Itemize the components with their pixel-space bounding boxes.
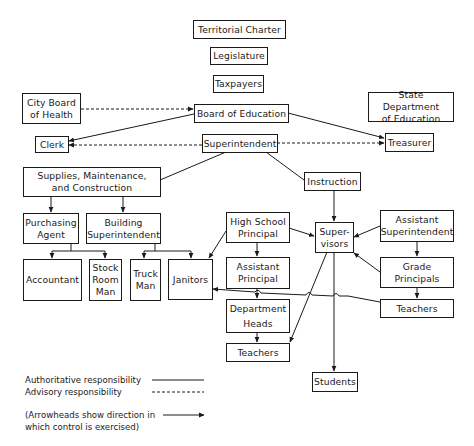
- legend-advisory-label: Advisory responsibility: [25, 386, 122, 398]
- node-city-board-of-health: City Board of Health: [22, 93, 81, 124]
- node-truck-man: Truck Man: [130, 259, 161, 301]
- node-grade-principals: Grade Principals: [380, 257, 454, 288]
- node-instruction: Instruction: [304, 172, 361, 191]
- node-state-department-of-education: State Department of Education: [368, 92, 454, 122]
- node-supervisors: Super- visors: [315, 222, 354, 253]
- node-board-of-education: Board of Education: [194, 104, 289, 123]
- node-superintendent: Superintendent: [202, 134, 278, 153]
- node-assistant-superintendent: Assistant Superintendent: [380, 210, 454, 242]
- node-clerk: Clerk: [35, 136, 69, 153]
- node-treasurer: Treasurer: [385, 133, 434, 152]
- node-accountant: Accountant: [23, 259, 82, 301]
- node-high-school-principal: High School Principal: [226, 212, 290, 243]
- node-territorial-charter: Territorial Charter: [193, 20, 286, 39]
- node-supplies-maintenance-construction: Supplies, Maintenance, and Construction: [23, 167, 161, 197]
- node-legislature: Legislature: [210, 47, 268, 65]
- org-chart: Territorial Charter Legislature Taxpayer…: [0, 0, 474, 446]
- node-stock-room-man: Stock Room Man: [89, 259, 122, 301]
- node-teachers-high-school: Teachers: [226, 343, 290, 362]
- node-janitors: Janitors: [168, 259, 213, 300]
- node-building-superintendent: Building Superintendent: [86, 213, 161, 244]
- node-assistant-principal: Assistant Principal: [226, 257, 290, 289]
- node-purchasing-agent: Purchasing Agent: [23, 213, 79, 244]
- node-department-heads: Department Heads: [226, 299, 290, 333]
- node-teachers-elementary: Teachers: [380, 299, 454, 318]
- legend-arrow-note: (Arrowheads show direction in which cont…: [25, 409, 155, 433]
- legend-authoritative-label: Authoritative responsibility: [25, 374, 141, 386]
- node-taxpayers: Taxpayers: [213, 75, 264, 93]
- node-students: Students: [312, 372, 358, 392]
